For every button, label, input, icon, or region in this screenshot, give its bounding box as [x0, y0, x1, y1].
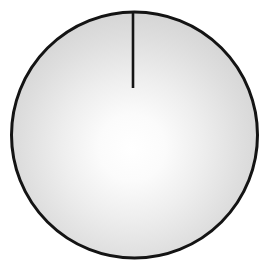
sphere-outline [12, 12, 258, 258]
figure-canvas [0, 0, 271, 273]
sphere-diagram-svg [0, 0, 271, 273]
